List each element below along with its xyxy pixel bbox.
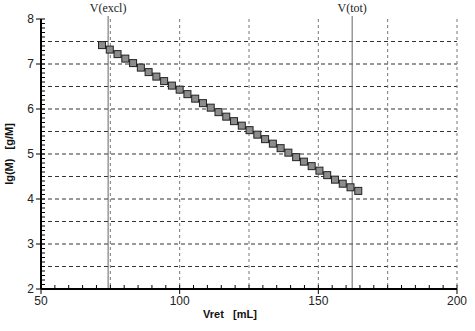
square-marker: [114, 51, 121, 58]
reference-line-label: V(excl): [90, 1, 127, 15]
square-marker: [223, 113, 230, 120]
x-tick-label: 100: [170, 294, 190, 308]
calibration-chart: V(excl)V(tot) 234567850100150200 Vret [m…: [0, 0, 475, 331]
square-marker: [324, 172, 331, 179]
square-marker: [316, 167, 323, 174]
square-marker: [308, 163, 315, 170]
y-tick-label: 5: [27, 147, 34, 161]
y-tick-label: 2: [27, 282, 34, 296]
x-tick-label: 150: [308, 294, 328, 308]
square-marker: [207, 104, 214, 111]
square-marker: [122, 55, 129, 62]
square-marker: [106, 46, 113, 53]
square-marker: [199, 100, 206, 107]
square-marker: [347, 184, 354, 191]
grid-lines: [41, 19, 457, 289]
reference-line-label: V(tot): [338, 1, 367, 15]
square-marker: [262, 136, 269, 143]
square-marker: [269, 140, 276, 147]
y-tick-label: 6: [27, 102, 34, 116]
square-marker: [184, 91, 191, 98]
square-marker: [176, 86, 183, 93]
square-marker: [339, 180, 346, 187]
square-marker: [231, 118, 238, 125]
reference-lines: V(excl)V(tot): [90, 1, 367, 289]
x-tick-label: 50: [34, 294, 48, 308]
square-marker: [355, 187, 362, 194]
square-marker: [238, 122, 245, 129]
square-marker: [168, 82, 175, 89]
axes: [36, 19, 457, 294]
x-axis-title: Vret [mL]: [203, 308, 257, 320]
square-marker: [145, 69, 152, 76]
square-marker: [161, 78, 168, 85]
y-tick-label: 3: [27, 237, 34, 251]
square-marker: [130, 60, 137, 67]
square-marker: [246, 127, 253, 134]
y-tick-label: 7: [27, 57, 34, 71]
square-marker: [192, 95, 199, 102]
y-tick-label: 8: [27, 12, 34, 26]
square-marker: [285, 149, 292, 156]
square-marker: [331, 176, 338, 183]
data-series: [99, 42, 362, 195]
square-marker: [137, 64, 144, 71]
square-marker: [99, 42, 106, 49]
square-marker: [293, 154, 300, 161]
square-marker: [153, 73, 160, 80]
square-marker: [254, 131, 261, 138]
square-marker: [215, 109, 222, 116]
axis-labels: 234567850100150200: [27, 12, 467, 308]
square-marker: [277, 145, 284, 152]
x-tick-label: 200: [447, 294, 467, 308]
square-marker: [300, 158, 307, 165]
y-tick-label: 4: [27, 192, 34, 206]
y-axis-title: lg(M) [g/M]: [3, 123, 15, 185]
